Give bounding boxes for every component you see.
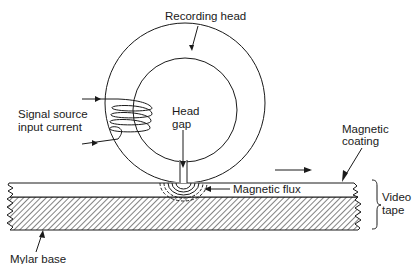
label-recording-head: Recording head: [165, 10, 246, 22]
label-signal-source-2: input current: [18, 121, 83, 133]
label-video-tape-2: tape: [382, 204, 404, 216]
label-magnetic-coating-2: coating: [342, 135, 379, 147]
recording-head-diagram: Recording head Signal source input curre…: [0, 0, 418, 264]
coil: [82, 99, 152, 144]
mylar-base-leader: [36, 230, 45, 252]
label-head-gap-2: gap: [172, 118, 191, 130]
recording-head: [105, 23, 265, 183]
label-mylar-base: Mylar base: [10, 253, 66, 264]
recording-head-leader: [189, 26, 198, 51]
label-head-gap-1: Head: [172, 105, 200, 117]
input-arrow-out: [92, 140, 98, 146]
label-magnetic-coating-1: Magnetic: [342, 123, 389, 135]
tape-direction-arrow: [275, 167, 312, 173]
label-magnetic-flux: Magnetic flux: [233, 183, 301, 195]
mylar-base: [7, 197, 361, 230]
magnetic-coating-leader: [342, 148, 362, 182]
video-tape-brace: [372, 180, 381, 229]
label-video-tape-1: Video: [382, 191, 411, 203]
label-signal-source-1: Signal source: [18, 108, 88, 120]
input-arrow-in: [95, 96, 101, 102]
head-gap-leader: [180, 130, 186, 168]
